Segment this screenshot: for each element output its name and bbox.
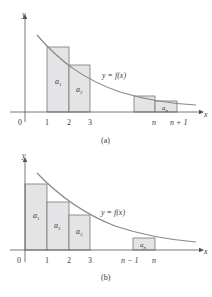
integral-test-diagram: y x 0 1 2 3 n n + 1 a1 a2 an y = f(x) (a… [0,0,212,297]
y-axis-label-b: y [21,151,26,160]
curve-label-a: y = f(x) [101,71,126,80]
tick-a-3: 3 [88,118,92,127]
curve-label-b: y = f(x) [100,208,125,217]
tick-b-nminus1: n − 1 [121,256,138,265]
tick-b-1: 1 [45,256,49,265]
tick-a-n: n [152,118,156,127]
tick-b-n: n [152,256,156,265]
caption-a: (a) [101,136,110,145]
panel-b: y x 0 1 2 3 n − 1 n a1 a2 a3 an y = f(x)… [10,151,208,282]
bars-b [25,184,155,250]
x-axis-label-b: x [203,247,208,256]
tick-a-2: 2 [67,118,71,127]
caption-b: (b) [101,273,111,282]
origin-label-a: 0 [18,118,22,127]
tick-a-nplus1: n + 1 [170,118,187,127]
tick-b-3: 3 [88,256,92,265]
y-axis-label-a: y [21,10,26,19]
panel-a: y x 0 1 2 3 n n + 1 a1 a2 an y = f(x) (a… [10,10,208,145]
x-axis-label-a: x [203,110,208,119]
tick-a-1: 1 [45,118,49,127]
origin-label-b: 0 [17,256,21,265]
tick-b-2: 2 [67,256,71,265]
